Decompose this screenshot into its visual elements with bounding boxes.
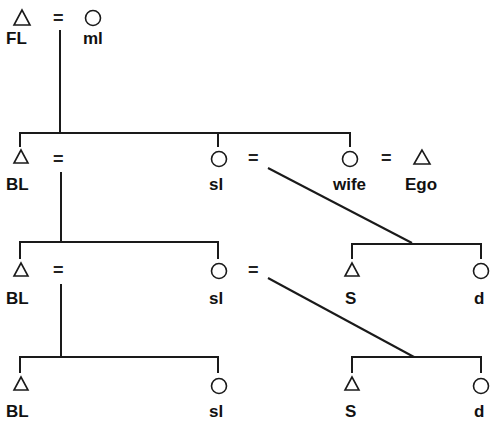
female-circle-icon: [474, 264, 489, 279]
marriage-equals: =: [248, 260, 259, 280]
label-d: d: [474, 289, 484, 308]
label-bl: BL: [6, 175, 29, 194]
label-ego: Ego: [405, 175, 437, 194]
female-circle-icon: [343, 152, 358, 167]
male-triangle-icon: [14, 263, 28, 276]
label-wife: wife: [332, 175, 366, 194]
marriage-equals: =: [53, 8, 64, 28]
female-circle-icon: [86, 11, 101, 26]
label-s: S: [345, 289, 356, 308]
male-triangle-icon: [14, 10, 30, 25]
female-circle-icon: [212, 264, 227, 279]
gen4-s: S: [345, 377, 359, 421]
female-circle-icon: [212, 152, 227, 167]
male-triangle-icon: [414, 150, 430, 164]
male-triangle-icon: [14, 377, 28, 390]
label-sl: sl: [209, 175, 223, 194]
label-ml: ml: [83, 29, 103, 48]
male-triangle-icon: [345, 263, 359, 276]
diagonal-descent-line: [268, 278, 414, 357]
marriage-equals: =: [248, 148, 259, 168]
gen3-d: d: [474, 264, 489, 309]
label-sl: sl: [209, 402, 223, 421]
kinship-diagram: FL = ml BL = sl = wife = Ego BL =: [0, 0, 502, 434]
label-bl: BL: [6, 402, 29, 421]
gen3-sl: sl: [209, 264, 227, 309]
gen4-bl: BL: [6, 377, 29, 421]
marriage-equals: =: [381, 148, 392, 168]
label-bl: BL: [6, 289, 29, 308]
label-sl: sl: [209, 289, 223, 308]
gen2-wife: wife: [332, 152, 366, 195]
gen4-sl: sl: [209, 379, 227, 422]
label-s: S: [345, 402, 356, 421]
gen2-sl: sl: [209, 152, 227, 195]
marriage-equals: =: [53, 260, 64, 280]
male-triangle-icon: [345, 377, 359, 390]
marriage-equals: =: [53, 149, 64, 169]
gen1-father-in-law: FL: [6, 10, 30, 48]
gen3-bl: BL: [6, 263, 29, 308]
label-fl: FL: [6, 29, 27, 48]
gen3-s: S: [345, 263, 359, 308]
gen4-d: d: [474, 379, 489, 422]
gen2-bl: BL: [6, 150, 29, 194]
gen2-ego: Ego: [405, 150, 437, 194]
male-triangle-icon: [14, 150, 28, 163]
female-circle-icon: [212, 379, 227, 394]
gen1-mother-in-law: ml: [83, 11, 103, 49]
female-circle-icon: [474, 379, 489, 394]
label-d: d: [474, 402, 484, 421]
